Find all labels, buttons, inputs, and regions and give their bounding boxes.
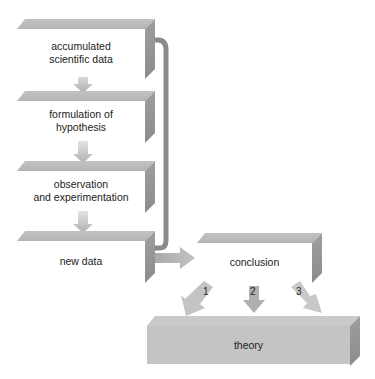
conclusion-box: conclusion [197,233,322,283]
step-label-line1: accumulated [51,40,111,53]
box-front-face: observation and experimentation [17,171,145,211]
step-formulation-of-hypothesis: formulation of hypothesis [17,91,155,143]
conclusion-label: conclusion [230,256,280,269]
step-label-line1: formulation of [49,108,113,121]
outcome-number-2: 2 [250,286,256,297]
box-top-face [17,19,155,29]
box-top-face [17,161,155,171]
step-label-line1: new data [60,255,103,268]
theory-label: theory [234,339,263,352]
box-top-face [147,316,360,326]
box-top-face [17,91,155,101]
box-front-face: new data [17,241,145,281]
outcome-number-3: 3 [296,286,302,297]
box-front-face: theory [147,326,350,364]
box-front-face: formulation of hypothesis [17,101,145,141]
box-side-face [145,19,155,79]
box-top-face [197,233,322,243]
step-label-line2: hypothesis [56,121,106,134]
step-label-line2: and experimentation [33,191,128,204]
arrow-formulation-to-observation [73,140,93,163]
step-label-line1: observation [54,178,108,191]
box-front-face: accumulated scientific data [17,29,145,77]
step-observation-and-experimentation: observation and experimentation [17,161,155,213]
box-top-face [17,231,155,241]
arrow-observation-to-new-data [73,210,93,233]
box-front-face: conclusion [197,243,312,281]
step-new-data: new data [17,231,155,283]
theory-box: theory [147,316,360,366]
step-accumulated-scientific-data: accumulated scientific data [17,19,155,79]
step-label-line2: scientific data [49,53,113,66]
outcome-number-1: 1 [203,286,209,297]
